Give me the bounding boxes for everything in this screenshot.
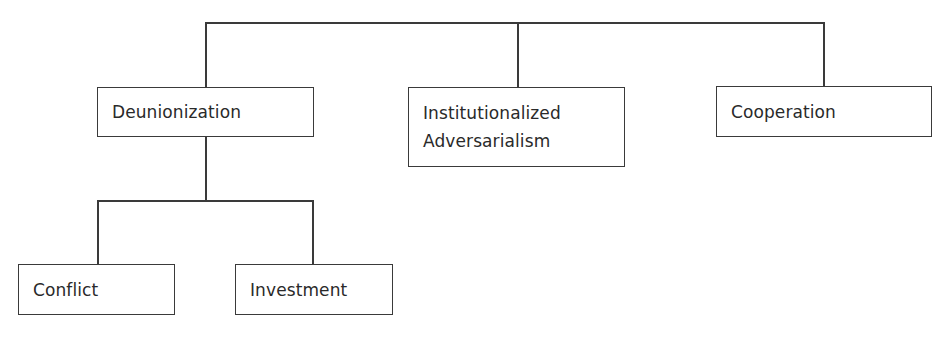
node-cooperation: Cooperation <box>716 86 932 137</box>
node-label: Institutionalized Adversarialism <box>423 99 561 155</box>
node-label: Investment <box>250 276 347 304</box>
deunionization-horizontal-connector <box>97 200 313 202</box>
connector-to-institutionalized-adversarialism <box>517 22 519 87</box>
node-label: Conflict <box>33 276 98 304</box>
connector-to-conflict <box>97 200 99 264</box>
connector-to-cooperation <box>823 22 825 86</box>
node-label: Deunionization <box>112 98 241 126</box>
node-conflict: Conflict <box>18 264 175 315</box>
tree-diagram: Deunionization Institutionalized Adversa… <box>0 0 948 338</box>
node-label: Cooperation <box>731 98 836 126</box>
connector-to-investment <box>312 200 314 264</box>
deunionization-down-connector <box>205 137 207 200</box>
root-horizontal-connector <box>205 22 824 24</box>
node-investment: Investment <box>235 264 393 315</box>
connector-to-deunionization <box>205 22 207 87</box>
node-institutionalized-adversarialism: Institutionalized Adversarialism <box>408 87 625 167</box>
node-deunionization: Deunionization <box>97 87 314 137</box>
